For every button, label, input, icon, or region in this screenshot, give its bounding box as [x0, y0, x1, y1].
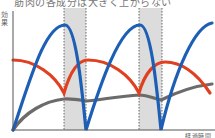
chart-plot: [0, 0, 215, 138]
blue-series-line: [13, 23, 212, 130]
gray-series-line: [13, 84, 212, 130]
